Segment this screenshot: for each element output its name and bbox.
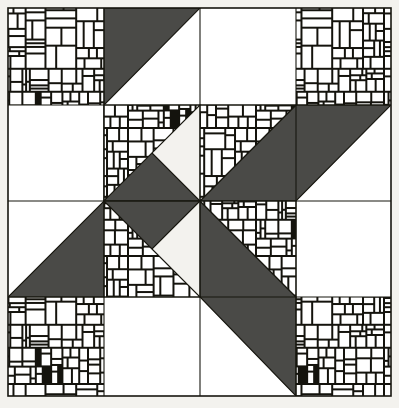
corner-bottom-left	[8, 297, 104, 396]
corner-top-left	[8, 8, 104, 105]
edge-right-bottom	[296, 201, 391, 297]
edge-left-top	[8, 105, 104, 201]
edge-top-right	[200, 8, 296, 105]
corner-top-right	[296, 8, 391, 105]
corner-bottom-right	[296, 297, 391, 396]
quilt-block-canvas	[0, 0, 399, 408]
quilt-block-figure: Pinwheel Star Quilt Block Square quilt b…	[0, 0, 399, 408]
edge-bottom-left	[104, 297, 200, 396]
